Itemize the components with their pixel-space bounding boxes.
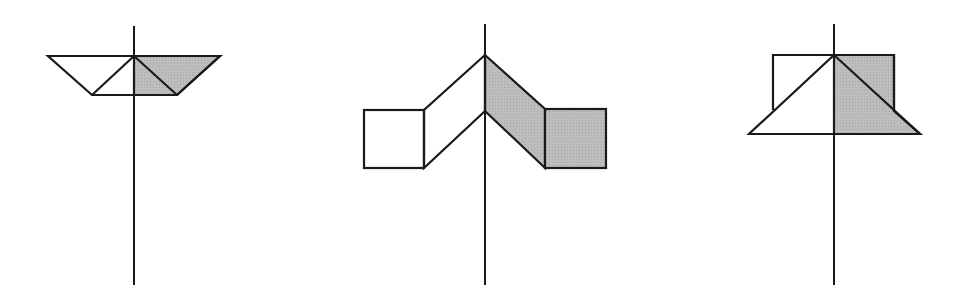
figure-1	[48, 26, 220, 285]
figure-2-left-square	[364, 110, 424, 168]
figure-2	[364, 24, 606, 285]
figure-2-shaded-square	[545, 109, 606, 168]
figure-2-shaded-wing	[485, 55, 545, 168]
figure-2-left-wing	[424, 55, 485, 168]
figure-1-diagonal-left	[92, 56, 134, 95]
symmetry-diagram	[0, 0, 962, 298]
figure-1-shaded-half	[134, 56, 220, 95]
figure-3	[749, 24, 920, 285]
